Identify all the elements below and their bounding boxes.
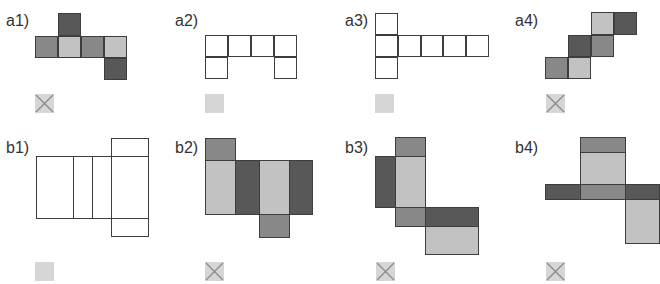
net-face-white <box>443 35 466 57</box>
answer-box-crossed[interactable] <box>376 262 395 281</box>
cropped-caption-text <box>0 0 659 4</box>
net-face-light <box>104 36 127 58</box>
net-face-white <box>36 156 74 219</box>
net-face-white <box>375 35 398 57</box>
net-face-light <box>568 57 591 79</box>
panel-label: a1) <box>6 13 29 29</box>
net-face-white <box>466 35 489 57</box>
net-face-medium <box>259 214 290 238</box>
net-face-medium <box>81 36 104 58</box>
net-face-white <box>274 57 297 79</box>
net-face-medium <box>545 57 568 79</box>
net-face-white <box>111 218 149 237</box>
cross-icon <box>376 262 395 281</box>
net-face-white <box>375 57 398 79</box>
net-face-dark <box>289 160 313 215</box>
panel-label: b4) <box>515 140 538 156</box>
net-face-medium <box>395 137 426 157</box>
answer-box-empty[interactable] <box>375 94 394 113</box>
net-face-medium <box>205 138 236 161</box>
net-face-white <box>398 35 421 57</box>
net-face-white <box>92 156 112 219</box>
net-face-light <box>425 226 479 255</box>
net-face-dark <box>614 12 637 35</box>
cross-icon <box>546 94 565 113</box>
net-face-white <box>73 156 93 219</box>
net-face-white <box>111 156 149 219</box>
net-face-white <box>274 35 297 57</box>
net-face-dark <box>425 207 479 227</box>
cross-icon <box>35 94 54 113</box>
net-face-medium <box>35 36 58 58</box>
net-face-white <box>251 35 274 57</box>
answer-box-empty[interactable] <box>35 262 54 281</box>
panel-label: a4) <box>515 13 538 29</box>
net-face-light <box>591 12 614 35</box>
panel-label: b1) <box>6 140 29 156</box>
answer-box-crossed[interactable] <box>546 94 565 113</box>
net-face-dark <box>568 35 591 57</box>
net-face-dark <box>545 184 581 200</box>
net-face-light <box>395 156 426 208</box>
panel-label: a3) <box>345 13 368 29</box>
cross-icon <box>205 262 224 281</box>
cross-icon <box>546 262 565 281</box>
net-face-dark <box>625 184 660 200</box>
net-face-dark <box>235 160 260 215</box>
net-face-dark <box>58 13 81 36</box>
answer-box-crossed[interactable] <box>546 262 565 281</box>
answer-box-crossed[interactable] <box>205 262 224 281</box>
answer-box-crossed[interactable] <box>35 94 54 113</box>
net-face-light <box>580 152 626 185</box>
net-face-white <box>375 13 398 35</box>
net-face-dark <box>375 156 396 208</box>
net-face-medium <box>395 207 426 227</box>
net-face-white <box>111 138 149 157</box>
net-face-white <box>421 35 443 57</box>
net-face-medium <box>591 35 614 57</box>
panel-label: a2) <box>175 13 198 29</box>
net-face-light <box>58 36 81 58</box>
net-face-light <box>259 160 290 215</box>
panel-label: b3) <box>345 140 368 156</box>
net-face-medium <box>580 184 626 200</box>
net-face-white <box>205 35 228 57</box>
net-face-light <box>205 160 236 215</box>
panel-label: b2) <box>175 140 198 156</box>
answer-box-empty[interactable] <box>205 94 224 113</box>
net-face-white <box>205 57 228 79</box>
net-face-light <box>625 199 660 244</box>
net-face-white <box>228 35 251 57</box>
net-face-dark <box>104 58 127 80</box>
net-face-medium <box>580 137 626 153</box>
